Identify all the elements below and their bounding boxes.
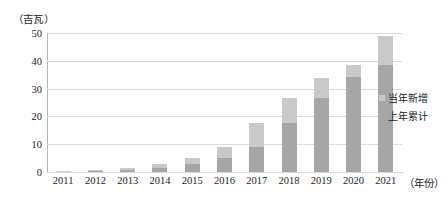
y-tick-label: 0 [8, 167, 42, 178]
legend-label: 上年累计 [388, 108, 428, 123]
legend-swatch-icon [379, 113, 385, 119]
bar-group[interactable] [88, 170, 103, 172]
bar-group[interactable] [282, 98, 297, 172]
y-tick-label: 10 [8, 139, 42, 150]
bar-group[interactable] [217, 147, 232, 172]
y-tick-label: 20 [8, 111, 42, 122]
bar-segment-new-additions[interactable] [378, 36, 393, 65]
y-tick-label: 50 [8, 28, 42, 39]
bar-segment-new-additions[interactable] [249, 123, 264, 147]
bar-segment-new-additions[interactable] [217, 147, 232, 158]
gridline [47, 172, 402, 173]
bar-segment-prior-cumulative[interactable] [185, 164, 200, 172]
x-axis-tick-labels: 2011201220132014201520162017201820192020… [47, 175, 402, 193]
bar-group[interactable] [56, 171, 71, 172]
x-axis-unit-caption: （年份） [404, 175, 444, 190]
y-axis-unit-caption: （吉瓦） [13, 11, 54, 26]
legend-item[interactable]: 当年新增 [379, 90, 428, 105]
bar-group[interactable] [120, 168, 135, 172]
gridline [47, 33, 402, 34]
legend-label: 当年新增 [388, 90, 428, 105]
bar-segment-prior-cumulative[interactable] [217, 158, 232, 172]
bar-group[interactable] [185, 158, 200, 172]
bar-group[interactable] [249, 123, 264, 172]
bar-segment-new-additions[interactable] [282, 98, 297, 123]
bar-segment-new-additions[interactable] [56, 171, 71, 172]
bar-chart: （吉瓦） 01020304050 20112012201320142015201… [0, 0, 447, 208]
gridline [47, 61, 402, 62]
bar-segment-prior-cumulative[interactable] [152, 168, 167, 172]
bar-segment-prior-cumulative[interactable] [314, 98, 329, 172]
y-tick-label: 30 [8, 83, 42, 94]
bar-group[interactable] [152, 164, 167, 172]
bar-segment-new-additions[interactable] [346, 65, 361, 78]
bar-segment-prior-cumulative[interactable] [282, 123, 297, 172]
bar-segment-prior-cumulative[interactable] [346, 77, 361, 172]
y-tick-label: 40 [8, 55, 42, 66]
bar-group[interactable] [346, 65, 361, 172]
bar-segment-prior-cumulative[interactable] [88, 171, 103, 172]
bar-segment-new-additions[interactable] [314, 78, 329, 99]
legend-item[interactable]: 上年累计 [379, 108, 428, 123]
plot-area [47, 33, 402, 172]
y-axis-tick-labels: 01020304050 [8, 33, 42, 172]
bar-group[interactable] [314, 78, 329, 173]
bar-segment-prior-cumulative[interactable] [120, 170, 135, 172]
chart-legend: 当年新增上年累计 [379, 90, 428, 123]
x-tick-label: 2021 [366, 175, 406, 186]
bar-segment-prior-cumulative[interactable] [249, 147, 264, 172]
legend-swatch-icon [379, 95, 385, 101]
